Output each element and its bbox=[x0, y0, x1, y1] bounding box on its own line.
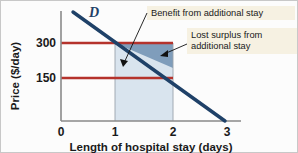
hospital-stay-demand-chart: D 300 150 0 1 2 3 Price ($/day) Length o… bbox=[1, 1, 298, 153]
y-tick-label-150: 150 bbox=[36, 71, 56, 85]
lost-surplus-annotation-label-line1: Lost surplus from bbox=[191, 30, 263, 40]
x-tick-label-0: 0 bbox=[58, 125, 65, 139]
chart-figure: D 300 150 0 1 2 3 Price ($/day) Length o… bbox=[0, 0, 298, 153]
y-tick-label-300: 300 bbox=[36, 36, 56, 50]
x-axis-title: Length of hospital stay (days) bbox=[70, 141, 233, 153]
x-tick-label-3: 3 bbox=[224, 125, 231, 139]
y-axis-title: Price ($/day) bbox=[9, 42, 21, 111]
x-tick-label-1: 1 bbox=[112, 125, 119, 139]
lost-surplus-annotation-label-line2: additional stay bbox=[191, 41, 251, 51]
x-tick-label-2: 2 bbox=[170, 125, 177, 139]
benefit-annotation-label: Benefit from additional stay bbox=[151, 8, 263, 18]
demand-curve-label: D bbox=[88, 5, 99, 20]
